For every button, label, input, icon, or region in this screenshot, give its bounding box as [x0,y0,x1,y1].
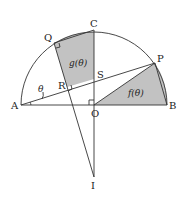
label-R: R [58,80,66,91]
right-angle-mark-O [89,100,94,105]
label-A: A [10,100,19,111]
geometry-figure: A B C O P Q R S I θ g(θ) f(θ) [0,0,185,200]
label-g-theta: g(θ) [69,58,88,68]
shaded-region-f [94,63,167,105]
label-B: B [169,100,176,111]
label-S: S [97,69,104,80]
label-O: O [91,108,99,119]
label-theta: θ [38,84,44,94]
label-P: P [157,53,164,64]
label-C: C [90,18,98,29]
label-I: I [91,180,95,191]
label-Q: Q [44,32,52,43]
label-f-theta: f(θ) [127,88,144,98]
